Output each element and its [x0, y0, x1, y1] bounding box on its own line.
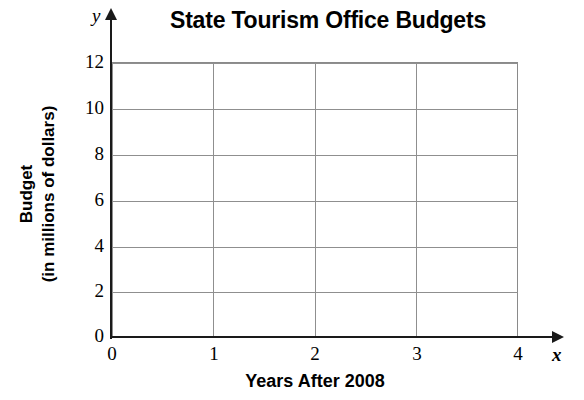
- y-axis-title-line-1: Budget: [16, 64, 38, 324]
- x-tick-label-1: 1: [194, 343, 234, 365]
- chart-figure: State Tourism Office Budgets y x 12 10 8…: [0, 0, 584, 400]
- x-tick-label-4: 4: [498, 343, 538, 365]
- x-axis-line: [110, 336, 558, 338]
- x-tick-label-3: 3: [397, 343, 437, 365]
- x-tick-label-0: 0: [92, 343, 132, 365]
- x-axis-title: Years After 2008: [112, 371, 518, 392]
- y-tick-label-12: 12: [64, 51, 104, 73]
- y-axis-line: [110, 18, 112, 339]
- y-axis-tick-labels: 12 10 8 6 4 2 0: [58, 0, 104, 400]
- y-axis-arrow-icon: [105, 8, 117, 20]
- gridline-vertical-3: [416, 63, 417, 338]
- plot-area: [112, 62, 518, 337]
- chart-title: State Tourism Office Budgets: [138, 6, 518, 34]
- y-axis-title-line-2: (in millions of dollars): [38, 64, 60, 324]
- y-tick-label-6: 6: [64, 189, 104, 211]
- gridline-vertical-1: [213, 63, 214, 338]
- gridline-vertical-2: [315, 63, 316, 338]
- x-axis-tick-labels: 0 1 2 3 4: [0, 343, 584, 369]
- y-tick-label-2: 2: [64, 280, 104, 302]
- gridline-vertical-0: [112, 63, 113, 338]
- y-axis-title: Budget (in millions of dollars): [16, 64, 60, 324]
- x-tick-label-2: 2: [295, 343, 335, 365]
- y-tick-label-8: 8: [64, 143, 104, 165]
- y-tick-label-10: 10: [64, 97, 104, 119]
- y-tick-label-4: 4: [64, 235, 104, 257]
- x-axis-arrow-icon: [552, 331, 564, 343]
